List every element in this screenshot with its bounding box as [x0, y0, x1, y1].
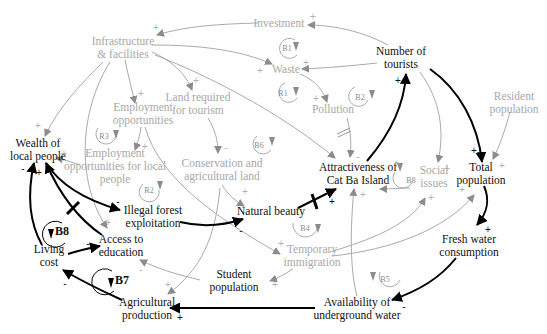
link-resident-total — [493, 112, 510, 159]
link-land-conservation — [208, 118, 218, 153]
link-infrastructure-land — [152, 52, 192, 90]
node-illegal-forest-exploitation: Illegal forest exploitation — [124, 204, 182, 230]
link-tourists-investment — [308, 25, 388, 45]
sign-livingcost-wealth: - — [21, 163, 24, 174]
sign-livingcost-education: - — [86, 238, 89, 249]
loop-label-b6: B6 — [254, 141, 263, 150]
sign-tourists-social: + — [444, 163, 450, 174]
node-employment-local: Employment opportunities for local peopl… — [64, 147, 166, 186]
link-water-attractiveness — [351, 189, 357, 296]
node-wealth-of-local-people: Wealth of local people — [10, 137, 66, 163]
loop-label-b4: B4 — [300, 224, 309, 233]
link-conservation-naturalbeauty — [222, 185, 244, 206]
node-land-required: Land required for tourism — [166, 91, 231, 117]
link-infrastructure-wealth — [45, 62, 103, 136]
sign-water-attractiveness: + — [360, 189, 366, 200]
node-infrastructure: Infrastructure & facilities — [92, 35, 155, 61]
loop-label-r2: R2 — [144, 186, 153, 195]
link-immigration-social — [330, 198, 425, 252]
sign-infrastructure-employment: + — [138, 88, 144, 99]
node-conservation: Conservation and agricultural land — [182, 157, 263, 183]
link-total-freshwater — [477, 186, 487, 225]
sign-waste-pollution: + — [313, 93, 319, 104]
loop-label-b2: B2 — [355, 93, 364, 102]
sign-conservation-naturalbeauty: + — [242, 186, 248, 197]
link-investment-infrastructure — [157, 23, 258, 35]
sign-tourists-investment: + — [310, 11, 316, 22]
loop-label-r3: R3 — [99, 132, 108, 141]
link-livingcost-education — [68, 246, 100, 254]
node-agricultural-production: Agricultural production — [119, 296, 175, 322]
link-attractiveness-tourists — [367, 74, 406, 161]
sign-attractiveness-tourists: + — [395, 75, 401, 86]
node-investment: Investment — [253, 17, 304, 30]
sign-education-wealth: + — [36, 167, 42, 178]
loop-label-b5: B5 — [380, 275, 389, 284]
link-tourists-social — [420, 72, 441, 162]
sign-employment-local: + — [142, 141, 148, 152]
sign-student-education: - — [139, 264, 142, 275]
link-infrastructure-employment — [125, 60, 135, 103]
sign-conservation-agricultural: + — [165, 279, 171, 290]
sign-infrastructure-waste: + — [257, 65, 263, 76]
loop-label-b3: B3 — [406, 176, 415, 185]
node-availability-underground-water: Availability of underground water — [314, 296, 401, 322]
sign-immigration-student: + — [272, 279, 278, 290]
node-fresh-water-consumption: Fresh water consumption — [439, 233, 498, 259]
sign-infrastructure-land: + — [193, 75, 199, 86]
sign-total-freshwater: + — [485, 224, 491, 235]
sign-illegalforest-naturalbeauty: - — [239, 225, 242, 236]
sign-wealth-illegalforest: - — [116, 196, 119, 207]
link-freshwater-water — [392, 258, 456, 300]
sign-tourists-total: + — [471, 145, 477, 156]
loop-label-b1: B1 — [282, 44, 291, 53]
sign-land-conservation: - — [224, 142, 227, 153]
node-access-to-education: Access to education — [99, 233, 144, 259]
link-student-education — [140, 260, 200, 280]
node-natural-beauty: Natural beauty — [237, 205, 305, 218]
sign-investment-infrastructure: + — [153, 22, 159, 33]
sign-pollution-attractiveness: - — [356, 151, 359, 162]
node-waste: Waste — [272, 63, 300, 76]
node-living-cost: Living cost — [34, 243, 65, 269]
sign-employment-immigration: + — [278, 238, 284, 249]
loop-label-r1: R1 — [278, 89, 287, 98]
link-illegalforest-naturalbeauty — [180, 219, 243, 225]
node-student-population: Student population — [209, 268, 258, 294]
sign-social-attractiveness: - — [386, 176, 389, 187]
sign-water-agricultural: + — [177, 312, 183, 323]
sign-immigration-social: + — [428, 192, 434, 203]
loop-label-b8: B8 — [55, 224, 69, 239]
sign-employment-local-wealth: + — [61, 148, 67, 159]
loop-label-b7: B7 — [115, 273, 129, 288]
sign-resident-total: + — [499, 160, 505, 171]
sign-agricultural-livingcost: - — [63, 278, 66, 289]
node-temporary-immigration: Temporary immigration — [284, 243, 341, 269]
node-number-of-tourists: Number of tourists — [376, 45, 426, 71]
sign-tourists-waste: + — [303, 57, 309, 68]
node-employment-opportunities: Employment opportunities — [113, 101, 174, 127]
sign-freshwater-water: - — [402, 301, 405, 312]
link-pollution-attractiveness — [347, 118, 351, 157]
sign-infrastructure-education: + — [105, 217, 111, 228]
link-tourists-waste — [302, 63, 377, 69]
causal-loop-diagram: Investment Infrastructure & facilities N… — [0, 0, 547, 334]
sign-naturalbeauty-attractiveness: + — [329, 196, 335, 207]
node-pollution: Pollution — [312, 103, 354, 116]
sign-immigration-total: + — [459, 184, 465, 195]
node-resident-population: Resident population — [489, 90, 538, 116]
sign-infrastructure-wealth: + — [35, 120, 41, 131]
